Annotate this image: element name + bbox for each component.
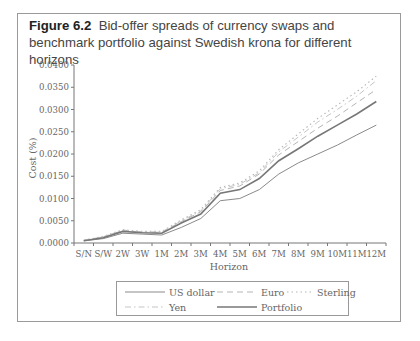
dotted-line-icon [287,290,313,294]
chart-legend: US dollar Euro Sterling Yen Portfolio [116,281,349,316]
y-tick-label: 0.0250 [39,127,69,137]
x-tick-label: 12M [366,249,386,259]
x-tick-label: 9M [311,249,325,259]
series-line-yen [84,81,377,241]
solid-line-icon [125,290,165,294]
legend-label: Portfolio [261,302,302,313]
legend-item-us-dollar: US dollar [125,285,215,299]
y-tick-label: 0.0100 [39,194,69,204]
legend-label: US dollar [169,287,215,298]
x-tick-label: 5M [233,249,247,259]
y-tick-label: 0.0050 [39,216,69,226]
x-tick-label: S/W [94,249,112,259]
x-tick-label: 1M [155,249,169,259]
legend-item-portfolio: Portfolio [217,300,302,314]
x-tick-label: 3W [135,249,149,259]
series-line-sterling [84,76,377,240]
y-tick-label: 0.0200 [39,149,69,159]
thick-line-icon [217,305,257,309]
y-tick-label: 0.0300 [39,105,69,115]
legend-item-sterling: Sterling [287,285,356,299]
chart-series [84,76,377,241]
legend-item-yen: Yen [125,300,186,314]
y-tick-label: 0.0000 [39,238,69,248]
x-tick-label: 10M [327,249,347,259]
legend-label: Sterling [317,287,356,298]
y-tick-label: 0.0350 [39,82,69,92]
x-tick-label: 8M [291,249,305,259]
series-line-us-dollar [84,125,377,241]
legend-item-euro: Euro [217,285,284,299]
legend-label: Yen [169,302,186,313]
dash-dot-line-icon [125,305,165,309]
x-tick-label: 4M [213,249,227,259]
x-axis-title: Horizon [210,261,248,272]
y-axis-title: Cost (%) [27,137,38,178]
series-line-euro [84,90,377,241]
y-tick-label: 0.0150 [39,171,69,181]
chart-axes: 0.00000.00500.01000.01500.02000.02500.03… [39,60,386,259]
x-tick-label: 2W [116,249,130,259]
x-tick-label: S/N [76,249,93,259]
x-tick-label: 3M [194,249,208,259]
series-line-portfolio [84,102,377,241]
x-tick-label: 6M [252,249,266,259]
dashed-line-icon [217,290,257,294]
legend-label: Euro [261,287,284,298]
y-tick-label: 0.0400 [39,60,69,70]
x-tick-label: 7M [272,249,286,259]
x-tick-label: 11M [347,249,367,259]
x-tick-label: 2M [174,249,188,259]
